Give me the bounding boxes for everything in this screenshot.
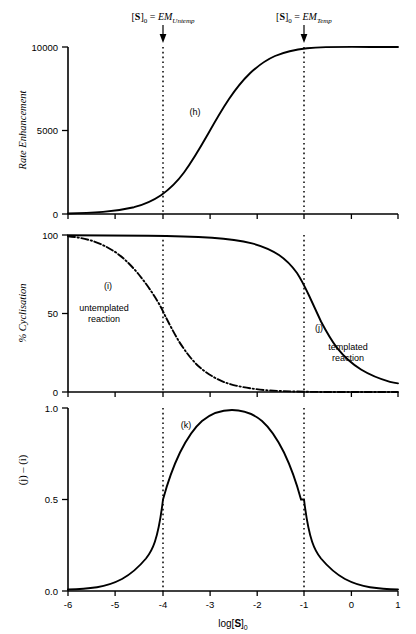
note-untemplated-line1: untemplated	[79, 303, 129, 313]
panel3-ytick-label-0: 0.0	[45, 586, 58, 597]
curve-label-i: (i)	[104, 281, 112, 291]
xtick-label-0: 0	[349, 599, 354, 610]
panel2-ytick-label-100: 100	[42, 230, 58, 241]
figure-container: [S]0 = EMUntemp [S]0 = EMTemp 10000 5000…	[0, 0, 416, 634]
panel2-ytick-label-50: 50	[47, 308, 58, 319]
multi-panel-chart: [S]0 = EMUntemp [S]0 = EMTemp 10000 5000…	[0, 0, 416, 634]
panel2-ytick-label-0: 0	[53, 387, 58, 398]
panel-rate-enhancement: 10000 5000 0 Rate Enhancement (h)	[17, 42, 398, 220]
note-templated-line2: reaction	[332, 353, 364, 363]
annotation-left-arrow-head	[160, 34, 167, 43]
panel3-ytick-label-0-5: 0.5	[45, 494, 58, 505]
panel1-ytick-label-10000: 10000	[32, 42, 58, 53]
xtick-label--4: -4	[159, 599, 167, 610]
xtick-label-1: 1	[395, 599, 400, 610]
panel1-y-axis-title: Rate Enhancement	[17, 89, 28, 170]
panel1-ytick-label-5000: 5000	[37, 125, 58, 136]
x-axis-labels: -6 -5 -4 -3 -2 -1 0 1 log[S]0	[64, 599, 401, 631]
panel3-y-axis-title: (j) – (i)	[17, 454, 29, 485]
annotation-right-arrow-head	[301, 34, 308, 43]
annotation-left-group: [S]0 = EMUntemp	[131, 11, 195, 43]
panel-difference: 1.0 0.5 0.0 (j) – (i) (k)	[17, 403, 398, 597]
note-untemplated-line2: reaction	[88, 314, 120, 324]
curve-k-difference	[68, 410, 398, 590]
panel-percent-cyclisation: 100 50 0 % Cyclisation (i) (j) untemplat…	[17, 230, 398, 398]
curve-label-h: (h)	[190, 107, 201, 117]
annotation-right-group: [S]0 = EMTemp	[276, 11, 332, 43]
xtick-label--6: -6	[64, 599, 72, 610]
xtick-label--2: -2	[253, 599, 261, 610]
xtick-label--1: -1	[300, 599, 308, 610]
note-templated-line1: templated	[328, 342, 368, 352]
panel1-ytick-label-0: 0	[53, 209, 58, 220]
curve-label-k: (k)	[181, 420, 192, 430]
panel3-ytick-label-1: 1.0	[45, 403, 58, 414]
panel2-y-axis-title: % Cyclisation	[17, 283, 28, 342]
annotation-right-label: [S]0 = EMTemp	[276, 11, 332, 25]
curve-label-j: (j)	[315, 323, 323, 333]
xtick-label--3: -3	[206, 599, 214, 610]
xtick-label--5: -5	[111, 599, 119, 610]
x-axis-title: log[S]0	[218, 618, 248, 631]
curve-h-rate-enhancement	[68, 47, 398, 214]
annotation-left-label: [S]0 = EMUntemp	[131, 11, 195, 25]
